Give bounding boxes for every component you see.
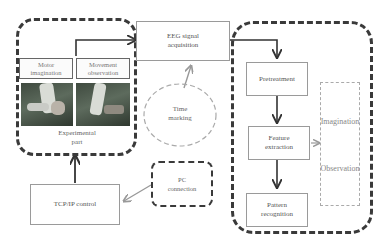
class-imagination: Imagination [314, 117, 366, 126]
pc-connection-box: PC connection [151, 161, 213, 207]
pretreatment-box: Pretreatment [246, 62, 308, 96]
movement-observation-label: Movementobservation [76, 58, 130, 79]
pattern-recognition-box: Patternrecognition [246, 193, 308, 227]
tcp-ip-control-box: TCP/IP control [30, 184, 120, 225]
experimental-part-label: Experimental part [40, 129, 114, 147]
feature-extraction-box: Featureextraction [248, 126, 310, 160]
classes-box [320, 82, 360, 206]
arrow-pc-to-tcp [124, 185, 151, 201]
class-observation: Observation [314, 164, 366, 173]
eeg-acquisition-box: EEG signalacquisition [136, 21, 230, 61]
motor-imagination-label: Motorimagination [19, 58, 73, 79]
motor-imagination-photo [21, 83, 73, 126]
time-marking-label: Time marking [160, 105, 200, 123]
movement-observation-photo [76, 83, 130, 126]
